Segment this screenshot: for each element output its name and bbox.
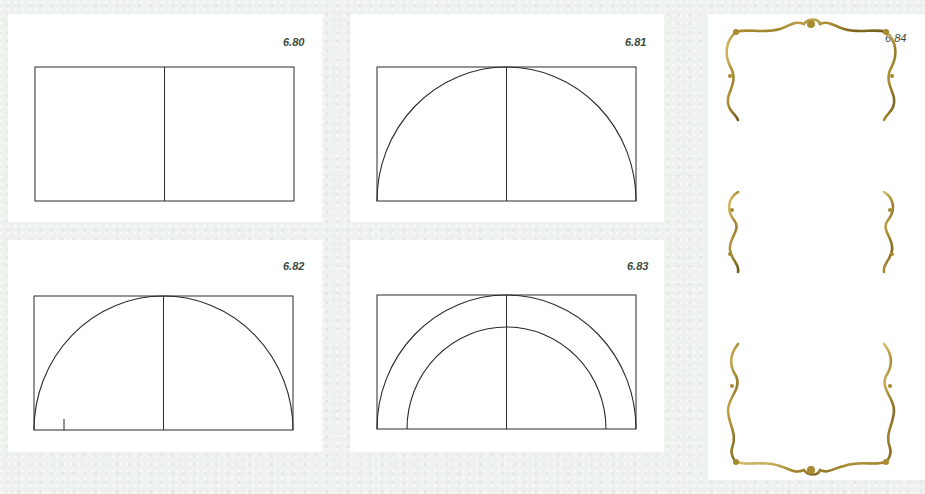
semicircle-tick-diagram <box>8 240 322 452</box>
concentric-arch-diagram <box>350 240 664 452</box>
ornate-gold-frame <box>708 14 925 480</box>
rectangle-centerline-diagram <box>8 14 322 222</box>
figure-panel-6-82: 6.82 <box>8 240 322 452</box>
figure-panel-6-83: 6.83 <box>350 240 664 452</box>
figure-panel-6-80: 6.80 <box>8 14 322 222</box>
semicircle-diagram <box>350 14 664 222</box>
figure-panel-6-84: 6.84 <box>708 14 925 480</box>
figure-panel-6-81: 6.81 <box>350 14 664 222</box>
